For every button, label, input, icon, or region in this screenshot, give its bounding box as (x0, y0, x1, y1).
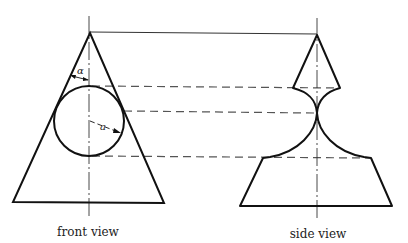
engineering-drawing: α a front view side view (0, 0, 408, 243)
front-view-caption: front view (57, 225, 119, 239)
alpha-label: α (77, 65, 84, 76)
alpha-arrowhead-right (83, 77, 89, 81)
radius-label: a (100, 121, 106, 132)
side-profile-outline (240, 35, 392, 206)
side-view-caption: side view (290, 227, 347, 241)
circle-top-projection-line (92, 86, 340, 88)
front-triangle (13, 33, 164, 203)
tangent-projection-line (124, 111, 314, 113)
circle-bottom-projection-line (92, 156, 370, 158)
front-view: α a front view (13, 16, 164, 239)
side-view: side view (240, 18, 392, 241)
radius-arrowhead (113, 128, 121, 133)
apex-projection-line (90, 32, 317, 34)
